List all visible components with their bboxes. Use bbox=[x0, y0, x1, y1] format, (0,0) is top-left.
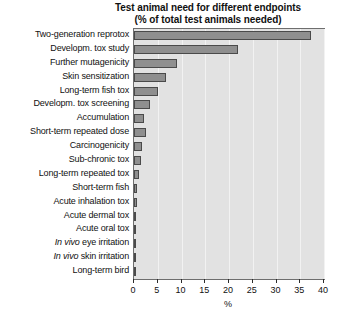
y-axis-label-italic: In vivo bbox=[55, 237, 80, 247]
bar-row bbox=[134, 57, 324, 71]
bar bbox=[134, 31, 311, 40]
bar bbox=[134, 59, 177, 68]
bar-series bbox=[134, 29, 324, 279]
x-axis-tick bbox=[133, 279, 134, 283]
bar bbox=[134, 73, 166, 82]
x-axis-tick bbox=[157, 279, 158, 283]
y-axis-label: Skin sensitization bbox=[0, 70, 129, 84]
bar bbox=[134, 267, 136, 276]
bar bbox=[134, 184, 137, 193]
chart-title-line1: Test animal need for different endpoints bbox=[115, 2, 301, 13]
x-axis-tick-label: 20 bbox=[223, 284, 233, 296]
bar-row bbox=[134, 223, 324, 237]
x-axis-tick-label: 25 bbox=[247, 284, 257, 296]
y-axis-label: Two-generation reprotox bbox=[0, 28, 129, 42]
chart-title: Test animal need for different endpoints… bbox=[80, 2, 336, 26]
bar-row bbox=[134, 182, 324, 196]
y-axis-label: Accumulation bbox=[0, 111, 129, 125]
y-axis-label: Short-term fish bbox=[0, 181, 129, 195]
bar-row bbox=[134, 98, 324, 112]
y-axis-label: In vivo skin irritation bbox=[0, 250, 129, 264]
y-axis-label: In vivo eye irritation bbox=[0, 236, 129, 250]
bar bbox=[134, 87, 158, 96]
bar bbox=[134, 225, 136, 234]
bar-row bbox=[134, 154, 324, 168]
x-axis-tick-label: 10 bbox=[175, 284, 185, 296]
x-axis-tick-label: 0 bbox=[130, 284, 135, 296]
y-axis-labels: Two-generation reprotoxDevelopm. tox stu… bbox=[0, 28, 129, 278]
x-axis-tick bbox=[228, 279, 229, 283]
plot-area bbox=[133, 28, 325, 280]
bar bbox=[134, 45, 238, 54]
y-axis-label: Short-term repeated dose bbox=[0, 125, 129, 139]
bar-row bbox=[134, 251, 324, 265]
bar-row bbox=[134, 210, 324, 224]
bar-row bbox=[134, 126, 324, 140]
y-axis-label: Long-term repeated tox bbox=[0, 167, 129, 181]
bar bbox=[134, 100, 150, 109]
bar-row bbox=[134, 85, 324, 99]
x-axis-tick bbox=[181, 279, 182, 283]
gridline bbox=[324, 29, 325, 279]
y-axis-label: Developm. tox study bbox=[0, 42, 129, 56]
x-axis-tick bbox=[252, 279, 253, 283]
y-axis-label: Long-term fish tox bbox=[0, 84, 129, 98]
x-axis-tick-label: 15 bbox=[199, 284, 209, 296]
y-axis-label: Developm. tox screening bbox=[0, 97, 129, 111]
bar bbox=[134, 253, 136, 262]
bar-row bbox=[134, 196, 324, 210]
y-axis-label: Acute inhalation tox bbox=[0, 195, 129, 209]
bar bbox=[134, 128, 146, 137]
bar bbox=[134, 114, 144, 123]
bar-row bbox=[134, 168, 324, 182]
x-axis-tick bbox=[276, 279, 277, 283]
bar bbox=[134, 142, 142, 151]
x-axis-tick-label: 5 bbox=[154, 284, 159, 296]
x-axis-tick bbox=[204, 279, 205, 283]
bar bbox=[134, 239, 136, 248]
y-axis-label: Acute dermal tox bbox=[0, 209, 129, 223]
bar-row bbox=[134, 43, 324, 57]
x-axis-tick bbox=[323, 279, 324, 283]
y-axis-label: Long-term bird bbox=[0, 264, 129, 278]
y-axis-label-italic: In vivo bbox=[53, 251, 78, 261]
bar bbox=[134, 156, 141, 165]
chart-subtitle: (% of total test animals needed) bbox=[80, 14, 336, 26]
bar-row bbox=[134, 237, 324, 251]
bar-row bbox=[134, 29, 324, 43]
bar bbox=[134, 198, 137, 207]
bar-row bbox=[134, 265, 324, 279]
bar-row bbox=[134, 71, 324, 85]
x-axis-title: % bbox=[133, 299, 323, 309]
x-axis-tick-labels: 0510152025303540 bbox=[133, 284, 323, 298]
y-axis-label: Sub-chronic tox bbox=[0, 153, 129, 167]
x-axis-tick bbox=[299, 279, 300, 283]
bar bbox=[134, 212, 136, 221]
y-axis-label: Carcinogenicity bbox=[0, 139, 129, 153]
x-axis-tick-label: 40 bbox=[318, 284, 328, 296]
bar bbox=[134, 170, 139, 179]
x-axis-tick-label: 30 bbox=[270, 284, 280, 296]
x-axis-tick-label: 35 bbox=[294, 284, 304, 296]
bar-chart: Test animal need for different endpoints… bbox=[0, 0, 339, 320]
bar-row bbox=[134, 112, 324, 126]
bar-row bbox=[134, 140, 324, 154]
y-axis-label: Acute oral tox bbox=[0, 222, 129, 236]
y-axis-label: Further mutagenicity bbox=[0, 56, 129, 70]
